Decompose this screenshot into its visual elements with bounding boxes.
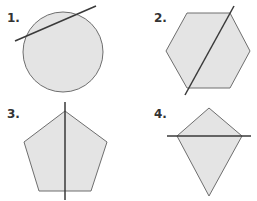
kite-shape [177,108,242,196]
figure-label-3: 3. [7,108,20,120]
figure-label-4: 4. [154,108,167,120]
figures-canvas [0,0,257,201]
figure-label-1: 1. [7,12,20,24]
figure-label-2: 2. [154,12,167,24]
figure-1-circle [15,6,103,92]
figure-4-kite [167,108,251,196]
figure-3-pentagon [24,102,107,200]
circle-shape [23,12,103,92]
figure-2-hexagon [166,6,250,95]
hexagon-shape [166,13,250,88]
